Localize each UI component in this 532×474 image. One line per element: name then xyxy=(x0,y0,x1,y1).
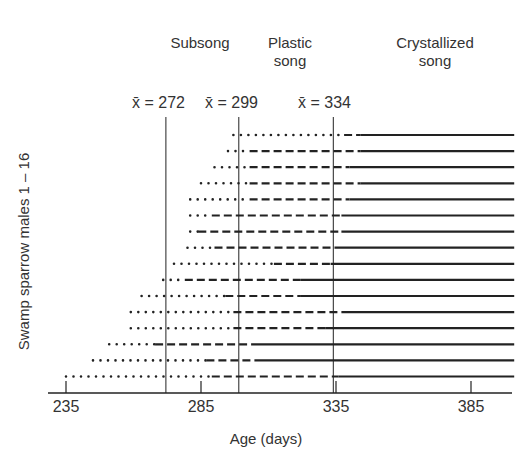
x-tick-label: 235 xyxy=(53,398,80,416)
chart-plot-area xyxy=(0,0,532,474)
x-tick-label: 335 xyxy=(323,398,350,416)
x-tick-label: 385 xyxy=(458,398,485,416)
x-axis-label: Age (days) xyxy=(0,430,532,447)
x-tick-label: 285 xyxy=(188,398,215,416)
